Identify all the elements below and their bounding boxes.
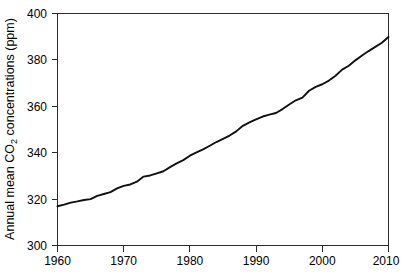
y-axis-title: Annual mean CO2 concentrations (ppm) (3, 18, 19, 240)
x-axis-ticks (58, 246, 389, 252)
x-tick-label-2000: 2000 (309, 254, 336, 268)
x-tick-label-1980: 1980 (177, 254, 204, 268)
x-tick-label-1970: 1970 (110, 254, 137, 268)
y-axis-title-before: Annual mean CO (3, 144, 17, 240)
y-axis-title-after: concentrations (ppm) (3, 18, 17, 139)
y-axis-tick-labels: 400 380 360 340 320 300 (27, 7, 47, 253)
x-axis-tick-labels: 1960 1970 1980 1990 2000 2010 (44, 254, 400, 268)
x-tick-label-1990: 1990 (243, 254, 270, 268)
y-axis-ticks (52, 14, 58, 246)
y-tick-label-400: 400 (27, 7, 47, 21)
y-tick-label-380: 380 (27, 53, 47, 67)
co2-trend-line (58, 37, 389, 206)
y-tick-label-360: 360 (27, 100, 47, 114)
plot-frame (58, 14, 389, 246)
co2-concentration-chart: 400 380 360 340 320 300 1960 1970 1980 1… (0, 0, 404, 278)
y-tick-label-300: 300 (27, 239, 47, 253)
y-tick-label-320: 320 (27, 193, 47, 207)
x-tick-label-2010: 2010 (373, 254, 400, 268)
y-tick-label-340: 340 (27, 146, 47, 160)
svg-text:Annual mean CO2 concentrations: Annual mean CO2 concentrations (ppm) (3, 18, 19, 240)
chart-canvas: 400 380 360 340 320 300 1960 1970 1980 1… (0, 0, 404, 278)
x-tick-label-1960: 1960 (44, 254, 71, 268)
